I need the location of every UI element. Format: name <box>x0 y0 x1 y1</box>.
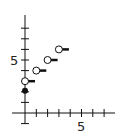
open-point <box>22 78 29 85</box>
step-function-chart: 5 5 <box>0 0 123 138</box>
axes <box>12 15 115 124</box>
filled-point <box>22 88 28 94</box>
open-point <box>44 57 51 64</box>
x-axis-label-5: 5 <box>77 119 85 134</box>
data-marks <box>22 46 69 94</box>
open-point <box>33 67 40 74</box>
open-point <box>55 46 62 53</box>
y-axis-label-5: 5 <box>10 53 18 68</box>
